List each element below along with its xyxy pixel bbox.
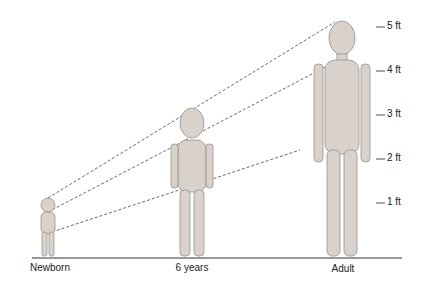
scale-label-5ft: 5 ft (387, 20, 401, 31)
scale-label-4ft: 4 ft (387, 64, 401, 75)
adult-figure (314, 21, 370, 256)
newborn-figure (41, 198, 55, 256)
growth-diagram (0, 0, 435, 286)
scale-label-3ft: 3 ft (387, 108, 401, 119)
stage-label-adult: Adult (332, 263, 355, 274)
child-figure (171, 108, 213, 256)
scale-label-2ft: 2 ft (387, 152, 401, 163)
scale-label-1ft: 1 ft (387, 196, 401, 207)
stage-label-newborn: Newborn (30, 262, 70, 273)
stage-label-6-years: 6 years (176, 262, 209, 273)
scale-ticks (376, 27, 385, 203)
